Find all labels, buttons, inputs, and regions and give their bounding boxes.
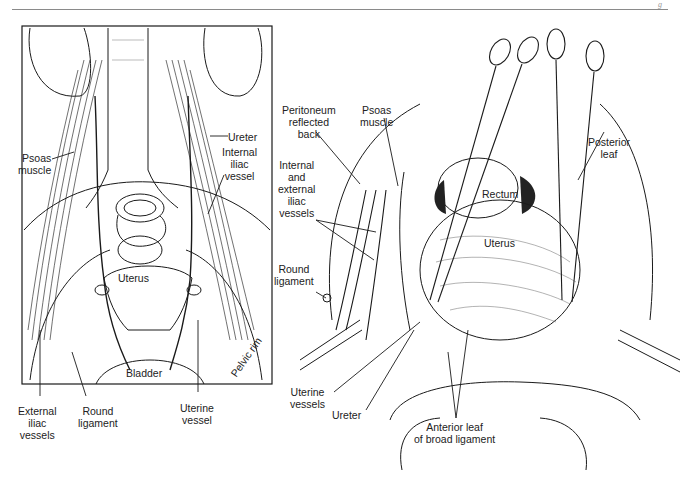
right-ureter: [170, 96, 192, 370]
left-ureter: [95, 96, 130, 370]
pelvic-rim: [24, 182, 270, 230]
label-uterine-vessel: Uterine vessel: [180, 402, 214, 426]
label-internal-iliac-vessel: Internal iliac vessel: [222, 146, 257, 182]
label-rectum: Rectum: [482, 188, 518, 200]
label-uterine-vessels: Uterine vessels: [290, 386, 325, 410]
left-psoas: [28, 60, 102, 340]
label-posterior-leaf: Posterior leaf: [588, 136, 630, 160]
iliac-vessels-right: [336, 190, 386, 340]
label-uterus-right: Uterus: [484, 237, 515, 249]
label-internal-external-iliac-vessels: Internal and external iliac vessels: [278, 159, 315, 219]
aorta: [86, 28, 178, 208]
label-psoas-muscle-right: Psoas muscle: [360, 104, 393, 128]
label-ureter-right: Ureter: [332, 409, 361, 421]
label-external-iliac-vessels: External iliac vessels: [18, 405, 57, 441]
clamp-left: [430, 33, 543, 302]
label-round-ligament-left: Round ligament: [78, 405, 118, 429]
right-psoas: [166, 60, 254, 340]
label-ureter-left: Ureter: [228, 131, 257, 143]
uterus-right: [420, 200, 580, 340]
label-uterus-left: Uterus: [118, 272, 149, 284]
label-bladder: Bladder: [126, 367, 162, 379]
label-psoas-muscle-left: Psoas muscle: [18, 152, 51, 176]
rectum-left: [116, 194, 164, 222]
left-kidney: [29, 28, 91, 96]
right-kidney: [204, 28, 262, 96]
label-round-ligament-right: Round ligament: [274, 263, 314, 287]
label-anterior-leaf-broad-ligament: Anterior leaf of broad ligament: [414, 421, 495, 445]
clamp-right: [547, 29, 604, 302]
label-peritoneum-reflected-back: Peritoneum reflected back: [282, 104, 336, 140]
